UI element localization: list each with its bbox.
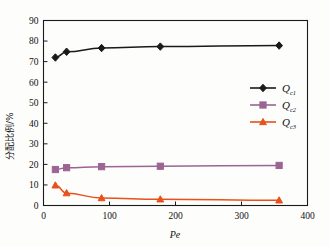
y-tick-label: 40: [29, 119, 39, 129]
series-line: [55, 46, 279, 58]
data-point-triangle: [52, 182, 59, 188]
series-line: [55, 185, 279, 200]
data-point-diamond: [157, 43, 164, 50]
y-tick-label: 70: [29, 57, 39, 67]
data-point-diamond: [98, 44, 105, 51]
series-Qc3: [52, 182, 283, 203]
data-point-diamond: [63, 48, 70, 55]
y-axis-title: 分配比例/%: [4, 112, 15, 160]
data-point-square: [52, 166, 58, 172]
legend-item-c2[interactable]: Qc2: [250, 99, 297, 113]
data-point-square: [260, 102, 266, 108]
legend-label-subscript: c1: [290, 89, 296, 96]
y-tick-label: 50: [29, 98, 39, 108]
x-tick-label: 200: [168, 211, 183, 221]
legend-label-subscript: c2: [290, 106, 297, 113]
data-point-square: [157, 163, 163, 169]
legend-label: Qc1: [282, 82, 296, 96]
y-tick-label: 30: [29, 139, 39, 149]
x-tick-label: 100: [102, 211, 117, 221]
series-Qc2: [52, 162, 282, 172]
data-point-square: [276, 162, 282, 168]
series-layer: [52, 42, 283, 203]
chart-container: 0102030405060708090 0100200300400 Qc1Qc2…: [0, 0, 330, 246]
x-tick-label: 0: [41, 211, 46, 221]
y-tick-label: 60: [29, 78, 39, 88]
x-axis-ticks: 0100200300400: [41, 202, 315, 221]
series-line: [55, 165, 279, 169]
x-tick-label: 400: [300, 211, 315, 221]
chart-legend: Qc1Qc2Qc3: [250, 82, 297, 130]
data-point-diamond: [276, 42, 283, 49]
legend-label-subscript: c3: [290, 123, 297, 130]
y-tick-label: 20: [29, 160, 39, 170]
y-tick-label: 10: [29, 180, 39, 190]
y-tick-label: 0: [34, 201, 39, 211]
y-tick-label: 80: [29, 36, 39, 46]
legend-item-c1[interactable]: Qc1: [250, 82, 296, 96]
line-chart: 0102030405060708090 0100200300400 Qc1Qc2…: [0, 0, 330, 246]
legend-item-c3[interactable]: Qc3: [250, 116, 297, 130]
x-axis-title: Pe: [169, 229, 181, 240]
data-point-diamond: [52, 54, 59, 61]
y-tick-label: 90: [29, 16, 39, 26]
series-Qc1: [52, 42, 283, 61]
y-axis-ticks: 0102030405060708090: [29, 16, 48, 211]
legend-label: Qc3: [282, 116, 297, 130]
legend-label: Qc2: [282, 99, 297, 113]
data-point-diamond: [260, 84, 267, 91]
plot-frame: [44, 21, 308, 206]
x-tick-label: 300: [234, 211, 249, 221]
data-point-square: [64, 165, 70, 171]
data-point-square: [98, 164, 104, 170]
